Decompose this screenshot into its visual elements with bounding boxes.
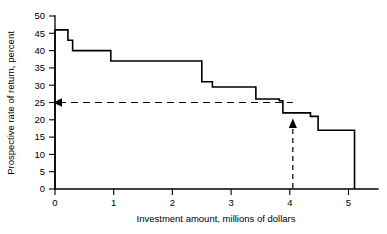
- step-chart-svg: 0 5 10 15 20 25 30 35 40 45 50 0 1 2 3: [0, 0, 387, 234]
- x-axis-title: Investment amount, millions of dollars: [137, 213, 296, 224]
- x-tick-label-5: 5: [346, 197, 351, 208]
- prospective-return-step-curve: [55, 30, 355, 189]
- x-tick-label-1: 1: [111, 197, 116, 208]
- x-axis-tick-labels: 0 1 2 3 4 5: [52, 197, 351, 208]
- y-tick-label-30: 30: [34, 80, 45, 91]
- y-axis-tick-labels: 0 5 10 15 20 25 30 35 40 45 50: [34, 10, 45, 194]
- x-axis-ticks: [55, 189, 349, 195]
- y-tick-label-0: 0: [40, 183, 45, 194]
- y-tick-label-35: 35: [34, 62, 45, 73]
- x-tick-label-4: 4: [287, 197, 292, 208]
- investment-level-arrow-icon: [289, 118, 297, 128]
- y-tick-label-45: 45: [34, 28, 45, 39]
- y-tick-label-40: 40: [34, 45, 45, 56]
- x-tick-label-0: 0: [52, 197, 57, 208]
- y-tick-label-50: 50: [34, 10, 45, 21]
- y-tick-label-20: 20: [34, 114, 45, 125]
- y-tick-label-15: 15: [34, 131, 45, 142]
- x-tick-label-3: 3: [228, 197, 233, 208]
- y-axis-title: Prospective rate of return, percent: [5, 31, 16, 175]
- x-tick-label-2: 2: [170, 197, 175, 208]
- y-tick-label-5: 5: [40, 166, 45, 177]
- y-tick-label-25: 25: [34, 97, 45, 108]
- chart-figure: 0 5 10 15 20 25 30 35 40 45 50 0 1 2 3: [0, 0, 387, 234]
- y-tick-label-10: 10: [34, 149, 45, 160]
